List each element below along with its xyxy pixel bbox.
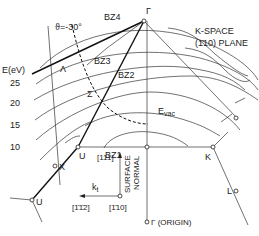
energy-tick-25: 25	[10, 78, 20, 88]
brillouin-zone-diagram: ϑ=-30° E(eV) 25 20 15 10 Λ Σ BZ4 BZ3 BZ2…	[0, 0, 259, 236]
u-lower-point	[30, 198, 34, 202]
x-point-label: X	[59, 162, 65, 172]
normal-label: NORMAL	[132, 155, 141, 190]
bz3-label: BZ3	[94, 56, 111, 66]
energy-tick-10: 10	[10, 142, 20, 152]
k-point-label: K	[205, 152, 211, 162]
bz2-label: BZ2	[118, 70, 135, 80]
x-point	[53, 164, 57, 168]
labels: ϑ=-30° E(eV) 25 20 15 10 Λ Σ BZ4 BZ3 BZ2…	[2, 6, 248, 227]
axes-origin-point	[118, 194, 122, 198]
gamma-origin-point	[145, 220, 149, 224]
k-point	[211, 145, 215, 149]
l-point	[234, 189, 238, 193]
gamma-top-label: Γ	[146, 6, 151, 16]
bz4-label: BZ4	[104, 12, 121, 22]
kspace-label-line2: (1̄10) PLANE	[195, 38, 248, 48]
u-upper-point	[76, 145, 80, 149]
l-point-label: L	[227, 186, 232, 196]
zone-edge-point	[234, 116, 238, 120]
theta-dashed-path	[72, 25, 148, 124]
evac-label: Evac	[158, 106, 175, 117]
energy-axis-label: E(eV)	[2, 65, 25, 75]
gamma-top-point	[142, 19, 146, 23]
energy-tick-20: 20	[10, 98, 20, 108]
dir-111-label: [111]	[97, 153, 114, 162]
bz1-center-point	[145, 145, 149, 149]
u-lower-label: U	[36, 197, 43, 207]
energy-tick-15: 15	[10, 120, 20, 130]
dir-112-label: [1̄1̄2]	[72, 203, 90, 212]
theta-label: ϑ=-30°	[55, 22, 82, 32]
lambda-label: Λ	[60, 64, 66, 74]
surface-label: SURFACE	[123, 155, 132, 193]
u-upper-label: U	[79, 151, 86, 161]
kspace-label-line1: K-SPACE	[195, 26, 234, 36]
gamma-origin-label: Γ (ORIGIN)	[151, 218, 192, 227]
sigma-label: Σ	[87, 89, 93, 99]
dir-110-label: [1̄10]	[109, 203, 127, 212]
kt-label: kt	[92, 182, 99, 193]
